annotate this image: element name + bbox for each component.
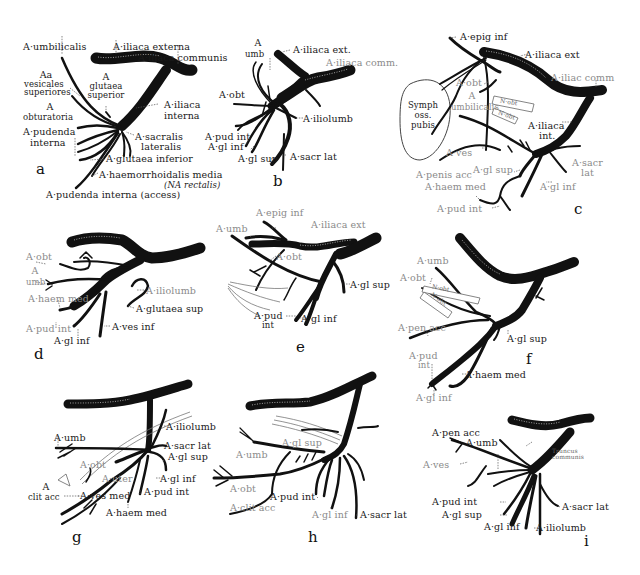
label-h-gl-inf: A·gl inf: [312, 510, 348, 520]
label-c-iliac-comm: A·iliac comm: [551, 73, 614, 83]
panel-letter-f: f: [526, 350, 532, 368]
label-g-uter: A·uter: [102, 474, 133, 484]
label-d-gl-inf: A·gl inf: [54, 336, 90, 346]
label-i-sacr-lat: A·sacr lat: [562, 502, 609, 512]
anatomical-figure: A·umbilicalis A·iliaca externa A·iliaca …: [0, 0, 640, 575]
label-a-obturatoria-2: obturatoria: [23, 113, 73, 122]
label-e-epig-inf: A·epig inf: [256, 208, 303, 218]
label-h-umb: A·umb: [236, 450, 268, 460]
label-d-glutaea-sup: A·glutaea sup: [136, 304, 203, 314]
label-b-umb-1: A: [250, 38, 266, 48]
label-i-pud-int: A·pud int: [432, 497, 477, 507]
label-a-glutaea-sup-3: superior: [84, 91, 128, 100]
panel-letter-a: a: [36, 160, 45, 178]
label-c-obt: A·obt: [456, 78, 482, 88]
panel-letter-i: i: [584, 532, 589, 550]
label-h-obt: A·obt: [230, 484, 256, 494]
label-c-haem-med: A·haem med: [425, 182, 486, 192]
label-i-iliolumb: A·iliolumb: [536, 523, 586, 533]
label-a-umbilicalis: A·umbilicalis: [23, 42, 86, 52]
label-i-ves: A·ves: [423, 460, 449, 470]
label-g-gl-sup: A·gl sup: [168, 452, 208, 462]
label-h-sacr-lat: A·sacr lat: [360, 510, 407, 520]
label-a-pudenda-1: A·pudenda: [23, 127, 76, 137]
label-e-umb: A·umb: [216, 224, 248, 234]
label-c-pud-int: A·pud int: [437, 204, 482, 214]
label-g-ves-med: A·ves med: [80, 491, 130, 501]
label-e-gl-sup: A·gl sup: [350, 280, 390, 290]
label-a-haemorrhoidalis: A·haemorrhoidalis media: [99, 170, 222, 180]
panel-letter-e: e: [296, 338, 305, 356]
label-d-pud-int: A·pud int: [26, 324, 71, 334]
label-f-umb: A·umb: [417, 256, 449, 266]
label-i-tiny-2: communis: [552, 454, 584, 460]
label-b-gl-sup: A·gl sup: [238, 154, 278, 164]
label-f-pen-acc: A·pen acc: [398, 323, 446, 333]
label-f-gl-inf: A·gl inf: [416, 393, 452, 403]
label-f-pud-2: int: [418, 361, 430, 370]
panel-letter-d: d: [34, 345, 44, 363]
label-d-obt: A·obt: [26, 252, 52, 262]
label-a-glutaea-inferior: A·glutaea inferior: [106, 154, 193, 164]
label-f-obt: A·obt: [400, 273, 426, 283]
label-a-iliaca-interna-2: interna: [164, 111, 200, 121]
label-g-obt: A·obt: [80, 460, 106, 470]
label-b-iliaca-comm: A·iliaca comm.: [326, 58, 398, 68]
label-h-pud-int: A·pud int: [270, 492, 315, 502]
label-c-symph-3: pubis: [400, 121, 446, 130]
label-b-obt: A·obt: [219, 90, 245, 100]
label-c-gl-inf: A·gl inf: [540, 182, 576, 192]
label-a-iliaca-externa: A·iliaca externa: [113, 42, 190, 52]
panel-letter-h: h: [308, 528, 318, 546]
label-e-obt: A·obt: [276, 252, 302, 262]
label-c-symph-2: oss.: [400, 111, 446, 120]
label-a-sacralis-2: lateralis: [141, 142, 181, 152]
label-e-pud-2: int: [262, 321, 274, 330]
label-c-symph-1: Symph: [400, 101, 446, 110]
label-g-clit-acc-1: A: [38, 482, 54, 492]
label-f-gl-sup: A·gl sup: [507, 334, 547, 344]
label-a-vesicales-3: superiores: [24, 88, 71, 97]
label-b-sacr-lat: A·sacr lat: [290, 152, 337, 162]
label-d-umb-1: A: [28, 266, 42, 276]
label-i-umb: A·umb: [466, 438, 498, 448]
label-i-gl-inf: A·gl inf: [484, 522, 520, 532]
label-d-ves-inf: A·ves inf: [112, 322, 154, 332]
label-g-umb: A·umb: [54, 433, 86, 443]
label-h-clit-acc: A·clit acc: [230, 503, 275, 513]
label-c-iliaca-ext: A·iliaca ext: [525, 50, 580, 60]
label-c-ves: A·ves: [446, 148, 472, 158]
label-a-pudenda-2: interna: [30, 138, 66, 148]
panel-letter-b: b: [273, 172, 283, 190]
label-d-iliolumb: A·iliolumb: [146, 286, 196, 296]
label-a-obturatoria-1: A: [40, 102, 60, 112]
panel-e-drawing: [228, 222, 376, 324]
label-g-haem-med: A·haem med: [106, 508, 167, 518]
label-c-sacr-lat-2: lat: [581, 168, 594, 178]
label-e-iliaca-ext: A·iliaca ext: [311, 220, 366, 230]
label-c-epig-inf: A·epig inf: [460, 32, 507, 42]
label-a-iliaca-communis: A·iliaca communis: [138, 53, 228, 63]
label-c-penis-acc: A·penis acc: [416, 170, 472, 180]
label-g-iliolumb: A·iliolumb: [166, 422, 216, 432]
label-g-pud-int: A·pud int: [144, 487, 189, 497]
label-b-gl-inf: A·gl inf: [208, 142, 244, 152]
label-a-pudenda-access: A·pudenda interna (access): [46, 190, 180, 200]
label-g-sacr-lat: A·sacr lat: [164, 441, 211, 451]
label-g-gl-inf: A·gl inf: [160, 474, 196, 484]
label-d-umb-2: umb: [26, 278, 45, 287]
label-c-umbilicalis-2: umbilicalis: [451, 103, 499, 112]
label-c-gl-sup: A·gl sup: [473, 165, 513, 175]
label-b-iliaca-ext: A·iliaca ext.: [293, 45, 351, 55]
label-a-iliaca-interna-1: A·iliaca: [164, 100, 200, 110]
label-g-clit-acc-2: clit acc: [28, 493, 60, 502]
panel-letter-c: c: [574, 200, 582, 218]
label-b-iliolumb: A·iliolumb: [303, 114, 353, 124]
label-e-gl-inf: A·gl inf: [301, 314, 337, 324]
label-c-umbilicalis-1: A: [462, 91, 482, 101]
label-c-iliaca-int-2: int.: [539, 131, 555, 141]
label-i-gl-sup: A·gl sup: [442, 510, 482, 520]
label-b-umb-2: umb: [245, 50, 264, 59]
label-d-haem-med: A·haem med: [28, 294, 89, 304]
label-f-haem-med: A·haem med: [465, 370, 526, 380]
